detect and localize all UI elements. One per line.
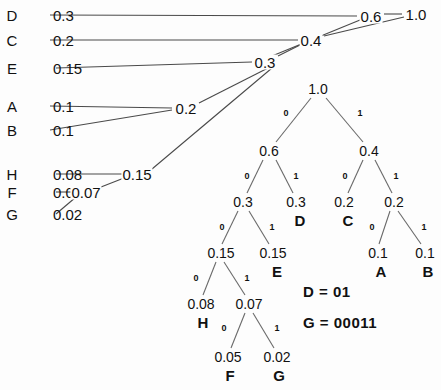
- symbol-letter-A: A: [7, 99, 17, 114]
- merge-node-0.15-1: 0.15: [121, 167, 152, 182]
- merge-node-0.2-2: 0.2: [175, 101, 198, 116]
- tree-node-n0001: 0.07: [234, 297, 263, 311]
- tree-bit-n00-n000: 0: [219, 223, 224, 232]
- tree-edge-n000-n0001: [224, 262, 245, 295]
- tree-bit-n11-n111: 1: [421, 223, 426, 232]
- symbol-probability-A: 0.1: [53, 99, 74, 114]
- merge-edge-9: [152, 68, 272, 169]
- tree-node-n000: 0.15: [206, 246, 235, 260]
- tree-bit-n1-n11: 1: [393, 172, 398, 181]
- symbol-letter-E: E: [7, 61, 17, 76]
- tree-node-root: 1.0: [307, 82, 328, 96]
- symbol-letter-C: C: [7, 33, 18, 48]
- tree-node-n00010: 0.05: [213, 350, 242, 364]
- tree-node-n0: 0.6: [258, 144, 279, 158]
- merge-node-0.3-3: 0.3: [254, 55, 277, 70]
- symbol-letter-D: D: [7, 8, 18, 23]
- tree-node-n0000: 0.08: [186, 297, 215, 311]
- tree-node-n00011: 0.02: [262, 350, 291, 364]
- tree-edge-n0001-n00010: [231, 313, 245, 348]
- tree-bit-n11-n110: 0: [369, 223, 374, 232]
- tree-leaf-H: H: [198, 315, 209, 330]
- symbol-probability-E: 0.15: [53, 61, 82, 76]
- merge-node-0.07-0: 0.07: [70, 185, 101, 200]
- symbol-letter-B: B: [7, 123, 17, 138]
- tree-leaf-A: A: [376, 264, 387, 279]
- tree-bit-n0-n01: 1: [293, 172, 298, 181]
- symbol-probability-C: 0.2: [53, 33, 74, 48]
- symbol-letter-F: F: [7, 185, 16, 200]
- tree-leaf-E: E: [272, 264, 282, 279]
- tree-bit-n0001-n00010: 0: [221, 324, 226, 333]
- tree-leaf-C: C: [343, 213, 354, 228]
- tree-bit-n0001-n00011: 1: [274, 324, 279, 333]
- merge-edge-11: [278, 45, 300, 56]
- symbol-probability-D: 0.3: [53, 8, 74, 23]
- merge-edge-10: [199, 66, 272, 103]
- tree-bit-n1-n10: 0: [342, 172, 347, 181]
- merge-node-0.4-4: 0.4: [300, 33, 323, 48]
- tree-leaf-B: B: [423, 264, 434, 279]
- tree-edge-n11-n111: [398, 211, 421, 244]
- tree-edge-root-n0: [276, 98, 311, 142]
- tree-node-n00: 0.3: [232, 195, 253, 209]
- huffman-diagram-figure: D0.3C0.2E0.15A0.1B0.1H0.08F0.05G0.02 0.0…: [0, 0, 441, 390]
- tree-edge-n000-n0000: [203, 262, 216, 295]
- merge-node-1.0-6: 1.0: [405, 7, 428, 22]
- tree-node-n11: 0.2: [383, 195, 404, 209]
- tree-leaf-F: F: [225, 368, 234, 383]
- merge-edge-group: [50, 14, 404, 214]
- merge-edge-2: [56, 62, 252, 68]
- tree-node-n1: 0.4: [358, 144, 379, 158]
- tree-node-n111: 0.1: [414, 246, 435, 260]
- tree-bit-n0-n00: 0: [244, 172, 249, 181]
- symbol-probability-H: 0.08: [53, 167, 82, 182]
- tree-node-n10: 0.2: [333, 195, 354, 209]
- tree-leaf-G: G: [273, 368, 285, 383]
- tree-edge-n0001-n00011: [253, 313, 274, 348]
- tree-bit-root-n1: 1: [357, 109, 362, 118]
- tree-bit-n000-n0001: 1: [244, 274, 249, 283]
- tree-node-n01: 0.3: [285, 195, 306, 209]
- tree-edge-n1-n11: [375, 160, 392, 193]
- tree-bit-root-n0: 0: [283, 109, 288, 118]
- code-equation-0: D = 01: [303, 284, 351, 299]
- tree-bit-n00-n001: 1: [269, 223, 274, 232]
- tree-edge-n11-n110: [379, 211, 390, 244]
- symbol-letter-G: G: [6, 207, 18, 222]
- tree-node-n001: 0.15: [258, 246, 287, 260]
- tree-edge-root-n1: [326, 98, 363, 142]
- symbol-probability-B: 0.1: [53, 123, 74, 138]
- tree-edge-n0-n01: [276, 160, 293, 193]
- merge-node-0.6-5: 0.6: [360, 9, 383, 24]
- tree-leaf-D: D: [295, 213, 306, 228]
- tree-edge-n00-n001: [249, 211, 269, 244]
- tree-node-n110: 0.1: [367, 246, 388, 260]
- symbol-letter-H: H: [7, 167, 18, 182]
- tree-edge-n1-n10: [348, 160, 363, 193]
- tree-bit-n000-n0000: 0: [193, 274, 198, 283]
- merge-edge-0: [50, 15, 357, 16]
- symbol-probability-G: 0.02: [53, 207, 82, 222]
- code-equation-1: G = 00011: [303, 315, 377, 330]
